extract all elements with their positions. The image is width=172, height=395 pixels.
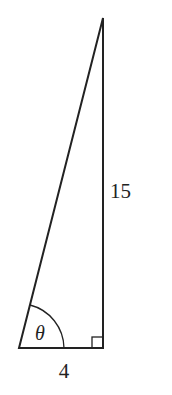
horizontal-side-label: 4 <box>59 359 70 383</box>
right-angle-marker <box>92 337 103 348</box>
angle-label: θ <box>35 322 45 344</box>
right-triangle <box>19 18 103 348</box>
vertical-side-label: 15 <box>110 179 131 203</box>
triangle-diagram: θ 15 4 <box>0 0 172 395</box>
